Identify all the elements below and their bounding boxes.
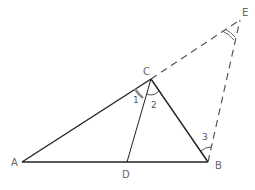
point-label-b: B [215, 160, 222, 171]
point-label-a: A [11, 157, 18, 168]
angle-3-marker [201, 147, 211, 151]
point-label-d: D [122, 169, 130, 180]
point-label-c: C [143, 66, 150, 77]
segment-cb [151, 79, 208, 162]
segment-be-dashed [208, 20, 240, 162]
angle-label-2: 2 [151, 100, 157, 110]
segment-ce-dashed [151, 20, 240, 79]
angle-label-3: 3 [202, 132, 208, 142]
angle-label-1: 1 [133, 95, 139, 105]
angle-2-marker [147, 91, 159, 95]
angle-e-marker-outer [222, 31, 234, 40]
geometry-diagram: A B C D E 1 2 3 [0, 0, 255, 190]
point-label-e: E [242, 7, 248, 18]
segment-ac [22, 79, 151, 162]
